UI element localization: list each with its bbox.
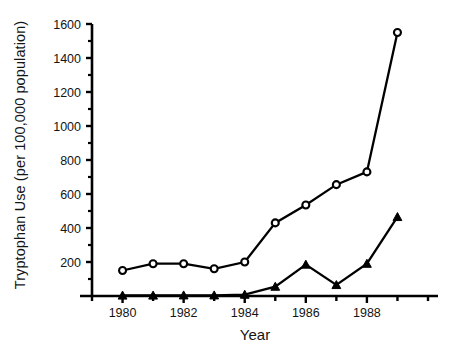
y-tick-label: 1400 [53, 52, 81, 66]
y-tick-label: 400 [60, 222, 81, 236]
axis-lines [80, 24, 438, 303]
x-tick-label: 1980 [109, 306, 137, 320]
series-filled-triangle-series [118, 213, 402, 300]
chart-figure: Tryptophan Use (per 100,000 population) … [0, 0, 454, 360]
data-point-open-circle [150, 260, 157, 267]
y-tick-label: 1200 [53, 86, 81, 100]
series-line [123, 217, 398, 296]
data-series-layer [118, 29, 402, 299]
data-point-open-circle [211, 265, 218, 272]
data-point-filled-triangle [301, 260, 310, 268]
y-tick-label: 600 [60, 188, 81, 202]
data-point-open-circle [241, 259, 248, 266]
y-tick-label: 1000 [53, 120, 81, 134]
x-tick-label: 1986 [292, 306, 320, 320]
data-point-open-circle [394, 29, 401, 36]
x-tick-label: 1982 [170, 306, 198, 320]
x-tick-label: 1984 [231, 306, 259, 320]
data-point-open-circle [180, 260, 187, 267]
x-axis-title: Year [95, 326, 415, 343]
x-tick-label: 1988 [353, 306, 381, 320]
data-point-open-circle [363, 168, 370, 175]
y-tick-label: 1600 [53, 18, 81, 32]
data-point-open-circle [119, 267, 126, 274]
data-point-open-circle [333, 181, 340, 188]
y-tick-label: 800 [60, 154, 81, 168]
data-point-open-circle [302, 202, 309, 209]
data-point-filled-triangle [393, 213, 402, 221]
data-point-open-circle [272, 219, 279, 226]
chart-plot-area: 2004006008001000120014001600 19801982198… [0, 0, 454, 360]
series-open-circle-series [119, 29, 401, 274]
y-tick-label: 200 [60, 256, 81, 270]
x-tick-label-group: 19801982198419861988 [109, 306, 381, 320]
series-line [123, 33, 398, 271]
y-tick-label-group: 2004006008001000120014001600 [53, 18, 81, 270]
